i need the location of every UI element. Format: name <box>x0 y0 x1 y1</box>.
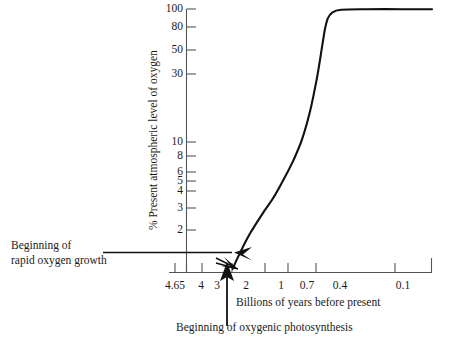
annotation-rapid-growth-line2: rapid oxygen growth <box>11 255 107 267</box>
annotation-oxygenic-photosynthesis: Beginning of oxygenic photosynthesis <box>176 322 353 334</box>
y-tick-marks <box>187 9 197 230</box>
y-tick-label-80: 80 <box>155 21 183 33</box>
x-tick-label-2: 2 <box>243 280 249 292</box>
oxygen-curve <box>233 9 432 269</box>
x-tick-label-1: 1 <box>278 280 284 292</box>
x-tick-marks <box>175 263 395 273</box>
y-axis-title: % Present atmospheric level of oxygen <box>148 50 160 230</box>
x-tick-label-0-1: 0.1 <box>396 280 410 292</box>
x-tick-label-4: 4 <box>198 280 204 292</box>
annotation-rapid-growth-line1: Beginning of <box>11 240 71 252</box>
rapid-growth-leader <box>103 247 252 269</box>
x-tick-label-4-65: 4.65 <box>165 280 185 292</box>
chart-canvas <box>0 0 450 337</box>
x-tick-label-0-4: 0.4 <box>333 280 347 292</box>
oxygen-history-chart: 100 80 50 30 10 8 6 5 4 3 2 4.65 4 3 2 1… <box>0 0 450 337</box>
x-tick-label-3: 3 <box>214 280 220 292</box>
y-tick-label-100: 100 <box>155 3 183 15</box>
x-axis-title: Billions of years before present <box>236 297 380 309</box>
x-tick-label-0-7: 0.7 <box>300 280 314 292</box>
